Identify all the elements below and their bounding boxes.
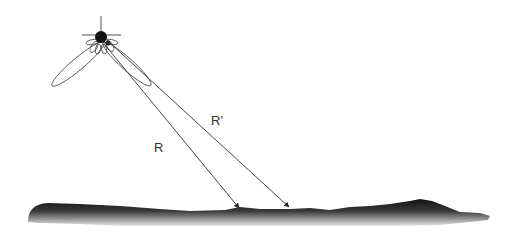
label-range-r: R (154, 140, 163, 155)
range-line-r-prime (110, 43, 289, 207)
antenna-pattern (48, 38, 155, 91)
label-range-r-prime: R' (211, 113, 223, 128)
diagram-svg (0, 0, 518, 241)
terrain-surface (28, 199, 490, 226)
diagram-canvas: R R' (0, 0, 518, 241)
